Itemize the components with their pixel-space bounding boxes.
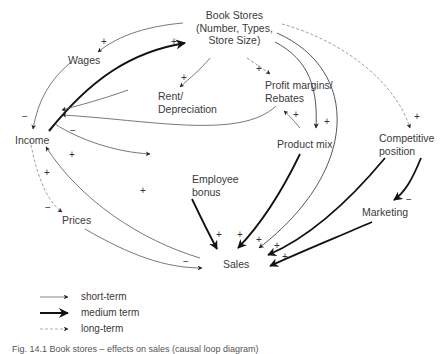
sign-competitive-sales: +	[274, 241, 280, 251]
edge-rent-income	[62, 90, 128, 110]
edge-bonus-sales	[192, 199, 217, 249]
sign-bookstores-productmix: +	[324, 117, 330, 127]
legend-medium-term: medium term	[81, 307, 139, 318]
sign-marketing-sales: +	[282, 252, 288, 262]
node-competitive-position: Competitive position	[379, 132, 434, 157]
sign-prices-sales: −	[183, 257, 189, 267]
sign-income-prices: −	[45, 203, 51, 213]
node-wages: Wages	[68, 54, 100, 67]
sign-bookstores-profit: +	[256, 64, 262, 74]
sign-productmix-profit: +	[293, 110, 299, 120]
node-prices: Prices	[62, 214, 91, 227]
node-employee-bonus: Employee bonus	[192, 173, 239, 198]
node-sales: Sales	[223, 258, 249, 271]
node-profit-margins: Profit margins/ Rebates	[265, 79, 333, 104]
sign-bonus-sales: +	[216, 230, 222, 240]
sign-bookstores-sales: +	[256, 235, 262, 245]
node-product-mix: Product mix	[277, 138, 332, 151]
figure-caption: Fig. 14.1 Book stores – effects on sales…	[12, 344, 258, 354]
legend-long-term: long-term	[81, 323, 123, 334]
edge-productmix-sales	[238, 154, 300, 248]
edge-bookstores-competitive	[282, 24, 410, 128]
sign-income-unlabeled: +	[140, 186, 146, 196]
sign-productmix-sales: +	[237, 230, 243, 240]
edge-wages-income	[33, 63, 70, 129]
node-book-stores: Book Stores (Number, Types, Store Size)	[196, 9, 273, 47]
sign-profit-income: +	[69, 150, 75, 160]
sign-wages-income: −	[22, 112, 28, 122]
edge-sales-income	[46, 147, 200, 258]
node-marketing: Marketing	[362, 206, 408, 219]
sign-bookstores-competitive: +	[414, 112, 420, 122]
sign-bookstores-rent: +	[181, 73, 187, 83]
sign-competitive-marketing: −	[406, 195, 412, 205]
node-income: Income	[15, 134, 49, 147]
legend-short-term: short-term	[81, 291, 127, 302]
sign-rent-income: −	[70, 126, 76, 136]
node-rent-depreciation: Rent/ Depreciation	[158, 90, 217, 115]
sign-income-bookstores: +	[171, 37, 177, 47]
sign-sales-income: +	[44, 168, 50, 178]
sign-bookstores-wages: +	[101, 37, 107, 47]
